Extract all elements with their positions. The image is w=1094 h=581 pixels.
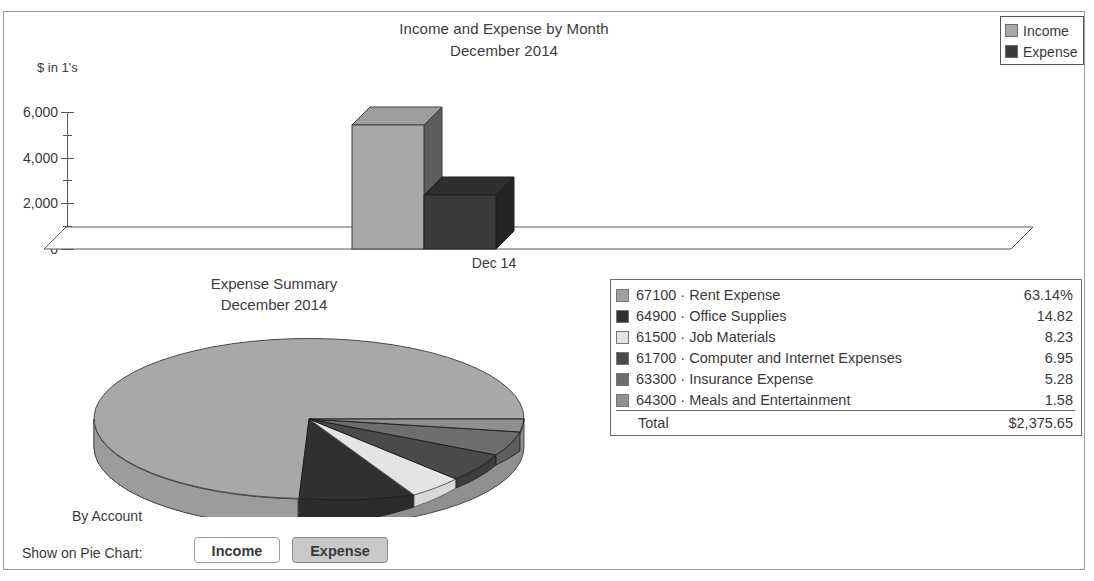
legend-swatch-expense: [1005, 45, 1018, 58]
legend-percent-value: 14.82: [987, 305, 1075, 326]
report-frame: Income and Expense by Month December 201…: [3, 11, 1085, 570]
total-label: Total: [636, 411, 987, 435]
show-income-button[interactable]: Income: [194, 537, 280, 563]
legend-percent-value: 6.95: [987, 347, 1075, 368]
table-row: 61700 · Computer and Internet Expenses 6…: [616, 347, 1075, 368]
pie-top-faces: [94, 338, 524, 499]
legend-swatch-cell: [616, 326, 636, 347]
show-expense-button[interactable]: Expense: [292, 537, 388, 563]
bar-chart-subtitle: December 2014: [4, 42, 1004, 59]
y-tick-2000: [61, 203, 74, 204]
table-row: 67100 · Rent Expense 63.14%: [616, 284, 1075, 305]
pie-chart-panel: Expense Summary December 2014: [4, 267, 1084, 571]
legend-account-label: 64900 · Office Supplies: [636, 305, 987, 326]
y-tick-label-4000: 4,000: [4, 150, 58, 166]
color-swatch-icon: [616, 352, 629, 365]
legend-percent-value: 5.28: [987, 368, 1075, 389]
color-swatch-icon: [616, 289, 629, 302]
legend-label-income: Income: [1023, 24, 1069, 38]
y-tick-3000: [63, 180, 72, 181]
y-tick-label-6000: 6,000: [4, 104, 58, 120]
chart-floor: [44, 217, 1034, 252]
legend-swatch-cell: [616, 368, 636, 389]
color-swatch-icon: [616, 310, 629, 323]
y-tick-5000: [63, 135, 72, 136]
legend-item-income: Income: [1005, 20, 1079, 41]
legend-account-label: 67100 · Rent Expense: [636, 284, 987, 305]
pie-chart-title: Expense Summary: [114, 275, 434, 292]
pie-chart-footer-label: By Account: [72, 508, 142, 524]
legend-swatch-cell: [616, 305, 636, 326]
legend-account-label: 63300 · Insurance Expense: [636, 368, 987, 389]
legend-percent-value: 8.23: [987, 326, 1075, 347]
y-tick-4000: [61, 158, 74, 159]
legend-swatch-cell: [616, 284, 636, 305]
table-row: 61500 · Job Materials 8.23: [616, 326, 1075, 347]
legend-account-label: 61700 · Computer and Internet Expenses: [636, 347, 987, 368]
y-tick-6000: [61, 112, 74, 113]
legend-swatch-cell: [616, 347, 636, 368]
legend-label-expense: Expense: [1023, 45, 1077, 59]
bar-chart-title: Income and Expense by Month: [4, 20, 1004, 37]
pie-chart-controls: Show on Pie Chart: Income Expense: [4, 537, 1084, 571]
y-axis-units-label: $ in 1's: [37, 60, 78, 75]
legend-percent-value: 63.14%: [987, 284, 1075, 305]
legend-item-expense: Expense: [1005, 41, 1079, 62]
legend-percent-value: 1.58: [987, 389, 1075, 411]
legend-account-label: 61500 · Job Materials: [636, 326, 987, 347]
color-swatch-icon: [616, 373, 629, 386]
pie-chart-graphic: [84, 327, 544, 517]
legend-swatch-income: [1005, 24, 1018, 37]
total-spacer-cell: [616, 411, 636, 435]
bar-expense: [424, 177, 536, 257]
bar-chart-panel: Income and Expense by Month December 201…: [4, 12, 1084, 267]
total-value: $2,375.65: [987, 411, 1075, 435]
table-row: 63300 · Insurance Expense 5.28: [616, 368, 1075, 389]
bar-chart-legend: Income Expense: [1000, 16, 1084, 65]
legend-account-label: 64300 · Meals and Entertainment: [636, 389, 987, 411]
table-row: 64900 · Office Supplies 14.82: [616, 305, 1075, 326]
y-tick-label-2000: 2,000: [4, 195, 58, 211]
color-swatch-icon: [616, 394, 629, 407]
pie-chart-subtitle: December 2014: [114, 296, 434, 313]
color-swatch-icon: [616, 331, 629, 344]
table-row-total: Total $2,375.65: [616, 411, 1075, 435]
table-row: 64300 · Meals and Entertainment 1.58: [616, 389, 1075, 411]
show-on-pie-chart-label: Show on Pie Chart:: [22, 545, 143, 561]
pie-legend-table: 67100 · Rent Expense 63.14% 64900 · Offi…: [610, 279, 1082, 436]
legend-swatch-cell: [616, 389, 636, 411]
